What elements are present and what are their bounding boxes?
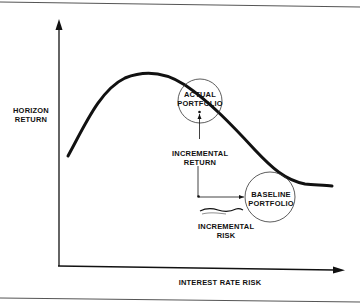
baseline-portfolio-label: BASELINE PORTFOLIO	[246, 190, 296, 208]
x-axis-arrow-icon	[333, 267, 345, 274]
incremental-return-line2: RETURN	[172, 158, 228, 167]
top-border	[0, 2, 360, 7]
y-axis-label: HORIZON RETURN	[13, 106, 49, 124]
incremental-risk-brace-shadow	[202, 213, 226, 214]
bottom-border	[0, 298, 360, 302]
y-axis-label-line1: HORIZON	[13, 106, 49, 115]
incremental-risk-line2: RISK	[198, 231, 254, 240]
incremental-return-line1: INCREMENTAL	[172, 149, 228, 158]
actual-portfolio-line1: ACTUAL	[176, 90, 224, 99]
actual-portfolio-label: ACTUAL PORTFOLIO	[176, 90, 224, 108]
x-axis	[58, 266, 334, 270]
incremental-return-label: INCREMENTAL RETURN	[172, 149, 228, 167]
x-axis-label: INTEREST RATE RISK	[150, 278, 290, 287]
x-axis-label-text: INTEREST RATE RISK	[150, 278, 290, 287]
y-axis-label-line2: RETURN	[13, 115, 49, 124]
incremental-risk-label: INCREMENTAL RISK	[198, 222, 254, 240]
y-axis-arrow-icon	[56, 19, 63, 30]
actual-portfolio-line2: PORTFOLIO	[176, 99, 224, 108]
baseline-portfolio-line1: BASELINE	[246, 190, 296, 199]
incremental-risk-line1: INCREMENTAL	[198, 222, 254, 231]
baseline-portfolio-line2: PORTFOLIO	[246, 199, 296, 208]
actual-portfolio-dot	[198, 111, 201, 114]
incremental-risk-brace	[200, 209, 243, 212]
corner-dot	[197, 195, 200, 198]
